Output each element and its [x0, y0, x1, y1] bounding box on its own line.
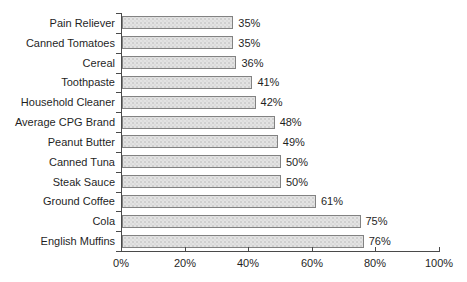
- y-tick: [116, 152, 121, 153]
- category-label: Cola: [0, 211, 115, 231]
- value-label: 41%: [257, 76, 279, 88]
- bar: [122, 36, 233, 49]
- bar-row: 35%: [122, 13, 440, 33]
- value-label: 50%: [286, 176, 308, 188]
- bar-row: 76%: [122, 231, 440, 251]
- category-label: Pain Reliever: [0, 13, 115, 33]
- plot-area: 35%35%36%41%42%48%49%50%50%61%75%76%: [121, 13, 440, 252]
- category-label: Canned Tuna: [0, 152, 115, 172]
- bar: [122, 116, 275, 129]
- bar: [122, 155, 281, 168]
- category-label: Steak Sauce: [0, 172, 115, 192]
- bar-row: 36%: [122, 53, 440, 73]
- x-axis-label: 80%: [350, 257, 400, 269]
- bar: [122, 56, 236, 69]
- y-tick: [116, 73, 121, 74]
- value-label: 35%: [238, 37, 260, 49]
- category-label: Toothpaste: [0, 72, 115, 92]
- y-tick: [116, 112, 121, 113]
- x-tick: [312, 247, 313, 252]
- x-tick: [185, 247, 186, 252]
- category-label: English Muffins: [0, 231, 115, 251]
- bar-row: 61%: [122, 191, 440, 211]
- y-tick: [116, 192, 121, 193]
- bar: [122, 235, 364, 248]
- x-axis-label: 60%: [287, 257, 337, 269]
- bar-row: 48%: [122, 112, 440, 132]
- x-tick: [375, 247, 376, 252]
- value-label: 75%: [366, 215, 388, 227]
- x-axis-label: 100%: [414, 257, 464, 269]
- value-label: 35%: [238, 17, 260, 29]
- y-tick: [116, 13, 121, 14]
- value-label: 42%: [261, 96, 283, 108]
- bar: [122, 76, 252, 89]
- bar-row: 50%: [122, 152, 440, 172]
- bar: [122, 96, 256, 109]
- value-label: 36%: [241, 57, 263, 69]
- category-label: Peanut Butter: [0, 132, 115, 152]
- category-label: Cereal: [0, 53, 115, 73]
- category-label: Ground Coffee: [0, 191, 115, 211]
- bar: [122, 195, 316, 208]
- bar: [122, 175, 281, 188]
- category-label: Average CPG Brand: [0, 112, 115, 132]
- x-tick: [248, 247, 249, 252]
- category-label: Canned Tomatoes: [0, 33, 115, 53]
- y-tick: [116, 33, 121, 34]
- value-label: 50%: [286, 156, 308, 168]
- value-label: 76%: [369, 235, 391, 247]
- bar-row: 75%: [122, 211, 440, 231]
- value-label: 48%: [280, 116, 302, 128]
- bar-row: 42%: [122, 92, 440, 112]
- y-tick: [116, 172, 121, 173]
- category-label: Household Cleaner: [0, 92, 115, 112]
- y-tick: [116, 132, 121, 133]
- bar: [122, 135, 278, 148]
- x-tick: [121, 247, 122, 252]
- category-axis: Pain RelieverCanned TomatoesCerealToothp…: [0, 13, 115, 251]
- x-tick: [439, 247, 440, 252]
- bar: [122, 16, 233, 29]
- bar-row: 50%: [122, 172, 440, 192]
- bar-chart: Pain RelieverCanned TomatoesCerealToothp…: [0, 0, 467, 282]
- bar: [122, 215, 361, 228]
- y-tick: [116, 92, 121, 93]
- y-tick: [116, 231, 121, 232]
- y-tick: [116, 53, 121, 54]
- bar-row: 35%: [122, 33, 440, 53]
- bar-row: 49%: [122, 132, 440, 152]
- x-axis-label: 20%: [160, 257, 210, 269]
- y-tick: [116, 211, 121, 212]
- value-label: 49%: [283, 136, 305, 148]
- x-axis-label: 0%: [96, 257, 146, 269]
- value-label: 61%: [321, 195, 343, 207]
- x-axis-label: 40%: [223, 257, 273, 269]
- bar-row: 41%: [122, 72, 440, 92]
